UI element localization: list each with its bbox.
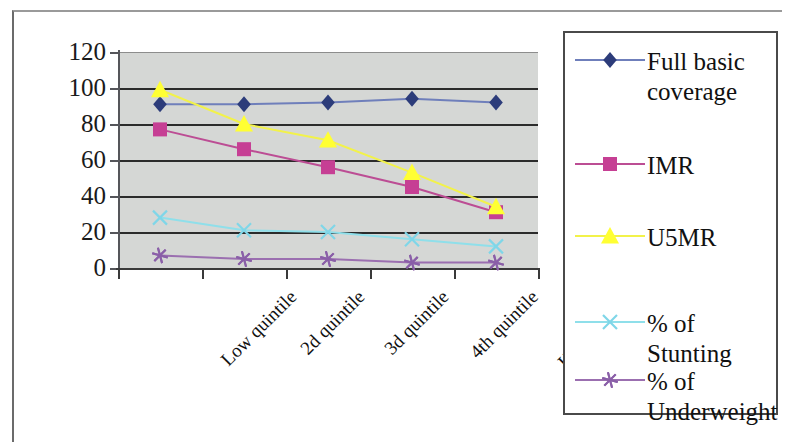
data-point-marker	[153, 122, 167, 136]
data-point-marker	[235, 115, 253, 131]
data-point-marker	[405, 91, 419, 107]
legend-label: % of Underweight	[647, 367, 778, 427]
legend-key-marker	[573, 151, 647, 177]
data-point-marker	[403, 164, 421, 180]
data-point-marker	[237, 142, 251, 156]
legend-key-marker	[573, 309, 647, 335]
legend-key-marker	[573, 223, 647, 249]
legend-entry: IMR	[565, 151, 776, 181]
legend-marker-triangle-icon	[573, 223, 647, 249]
data-point-marker	[151, 81, 169, 97]
data-point-marker	[405, 180, 419, 194]
legend-key-marker	[573, 47, 647, 73]
legend-label: IMR	[647, 151, 694, 181]
legend-label: % of Stunting	[647, 309, 776, 369]
legend-entry: Full basic coverage	[565, 47, 776, 107]
legend-marker-square-icon	[573, 151, 647, 177]
legend-entry: % of Stunting	[565, 309, 776, 369]
legend-marker-cross-icon	[573, 309, 647, 335]
data-point-marker	[321, 160, 335, 174]
legend-marker-diamond-icon	[573, 47, 647, 73]
legend-entry: % of Underweight	[565, 367, 776, 427]
data-point-marker	[489, 94, 503, 110]
data-point-marker	[237, 96, 251, 112]
series-of-stunting	[153, 211, 503, 254]
chart-plot-region: 020406080100120 Low quintile2d quintile3…	[0, 0, 560, 444]
data-point-marker	[321, 94, 335, 110]
data-point-marker	[153, 96, 167, 112]
legend-label: U5MR	[647, 223, 716, 253]
legend-label: Full basic coverage	[647, 47, 745, 107]
chart-legend: Full basic coverageIMRU5MR% of Stunting%…	[563, 31, 778, 415]
legend-key-marker	[573, 367, 647, 393]
legend-entry: U5MR	[565, 223, 776, 253]
legend-marker-star-icon	[573, 367, 647, 393]
data-series-layer	[0, 0, 560, 444]
series-of-underweight	[152, 248, 503, 271]
chart-figure: 020406080100120 Low quintile2d quintile3…	[0, 0, 786, 444]
